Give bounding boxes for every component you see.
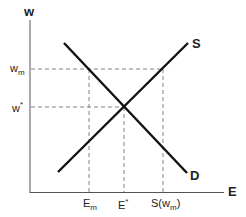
estar-tick-label: E*	[118, 198, 128, 211]
em-tick-label: Em	[83, 198, 97, 212]
y-axis-label: w	[24, 5, 34, 18]
wm-tick-label: wm	[10, 63, 25, 77]
wstar-tick-label: w*	[12, 101, 23, 114]
chart-canvas	[0, 0, 246, 217]
demand-label: D	[190, 169, 199, 182]
x-axis-label: E	[228, 185, 237, 198]
swm-tick-label: S(wm)	[151, 198, 180, 212]
supply-label: S	[192, 37, 201, 50]
